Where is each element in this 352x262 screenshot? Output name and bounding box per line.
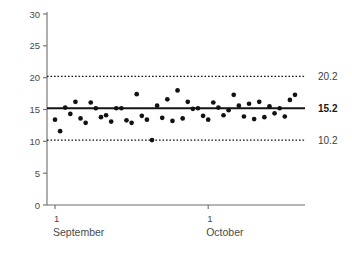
chart-canvas: 0510152025301September1October20.215.210… [0, 0, 352, 262]
data-point [155, 103, 160, 108]
control-chart: 0510152025301September1October20.215.210… [0, 0, 352, 262]
data-point [201, 114, 206, 119]
data-point [109, 119, 114, 124]
data-point [242, 114, 247, 119]
data-point [58, 129, 63, 134]
data-point [73, 100, 78, 105]
data-point [145, 117, 150, 122]
data-point [221, 113, 226, 118]
center-line-label: 15.2 [318, 103, 338, 114]
data-point [185, 100, 190, 105]
data-point [139, 114, 144, 119]
data-point [282, 114, 287, 119]
data-point [211, 100, 216, 105]
data-point [277, 106, 282, 111]
data-point [99, 115, 104, 120]
data-point [267, 104, 272, 109]
data-point [196, 106, 201, 111]
data-point [257, 100, 262, 105]
data-point [63, 105, 68, 110]
y-tick-label: 15 [29, 104, 40, 115]
data-point [293, 93, 298, 98]
x-tick-label: 1 [54, 213, 59, 224]
data-point [191, 107, 196, 112]
data-point [104, 113, 109, 118]
data-point [129, 121, 134, 126]
data-point [165, 97, 170, 102]
y-tick-label: 5 [35, 168, 40, 179]
data-point [216, 105, 221, 110]
data-point [252, 117, 257, 122]
y-tick-label: 20 [29, 72, 40, 83]
data-point [236, 103, 241, 108]
data-point [206, 117, 211, 122]
y-tick-label: 10 [29, 136, 40, 147]
data-point [150, 138, 155, 143]
data-point [119, 106, 124, 111]
data-point [134, 92, 139, 97]
lower-control-limit-label: 10.2 [318, 135, 338, 146]
y-tick-label: 25 [29, 40, 40, 51]
data-point [83, 121, 88, 126]
data-point [88, 100, 93, 105]
data-point [160, 115, 165, 120]
data-point [78, 116, 83, 121]
data-point [262, 115, 267, 120]
data-point [180, 116, 185, 121]
x-axis-month-label: October [206, 226, 244, 238]
upper-control-limit-label: 20.2 [318, 71, 338, 82]
data-point [247, 101, 252, 106]
data-point [272, 111, 277, 116]
data-point [231, 93, 236, 98]
data-point [114, 106, 119, 111]
y-tick-label: 0 [35, 200, 40, 211]
y-tick-label: 30 [29, 9, 40, 20]
data-point [175, 88, 180, 93]
data-point [53, 117, 58, 122]
x-tick-label: 1 [207, 213, 212, 224]
x-axis-month-label: September [53, 226, 105, 238]
data-point [124, 118, 129, 123]
data-point [170, 119, 175, 124]
data-point [226, 108, 231, 113]
data-point [288, 98, 293, 103]
data-point [94, 106, 99, 111]
data-point [68, 112, 73, 117]
